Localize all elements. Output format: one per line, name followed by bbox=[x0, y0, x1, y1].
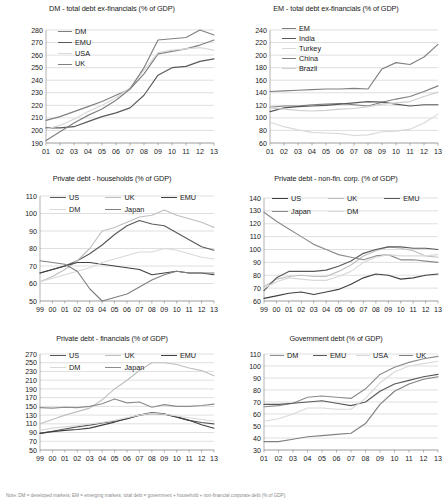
legend-item-japan: Japan bbox=[105, 206, 160, 213]
series-line-uk bbox=[264, 247, 438, 287]
x-tick-label: 08 bbox=[148, 306, 156, 314]
legend-label: Japan bbox=[291, 208, 311, 215]
y-tick-label: 130 bbox=[249, 207, 261, 215]
legend-swatch bbox=[399, 355, 413, 356]
legend-label: EM bbox=[299, 25, 310, 32]
x-tick-label: 02 bbox=[73, 306, 81, 314]
x-tick-label: 09 bbox=[160, 306, 168, 314]
x-tick-label: 99 bbox=[36, 455, 44, 463]
panel-private-debt-financials: Private debt - financials (% of GDP) 507… bbox=[0, 330, 224, 478]
legend-label: China bbox=[299, 55, 318, 62]
x-tick-label: 09 bbox=[376, 455, 384, 463]
x-tick-label: 02 bbox=[56, 148, 64, 156]
x-tick-label: 06 bbox=[123, 306, 131, 314]
x-tick-label: 12 bbox=[420, 148, 428, 156]
legend-swatch bbox=[282, 38, 296, 39]
y-tick-label: 220 bbox=[31, 102, 43, 110]
x-tick-label: 07 bbox=[347, 455, 355, 463]
x-tick-label: 03 bbox=[86, 455, 94, 463]
x-tick-label: 03 bbox=[86, 306, 94, 314]
y-tick-label: 80 bbox=[259, 127, 267, 135]
legend-label: DM bbox=[75, 28, 86, 35]
x-tick-label: 01 bbox=[266, 148, 274, 156]
x-tick-label: 04 bbox=[304, 455, 312, 463]
y-tick-label: 140 bbox=[255, 89, 267, 97]
y-tick-label: 70 bbox=[253, 399, 261, 407]
x-tick-label: 12 bbox=[196, 148, 204, 156]
y-tick-label: 100 bbox=[25, 210, 37, 218]
y-tick-label: 80 bbox=[29, 245, 37, 253]
x-tick-label: 10 bbox=[391, 455, 399, 463]
legend-swatch bbox=[270, 355, 284, 356]
x-tick-label: 13 bbox=[210, 148, 218, 156]
legend-label: DM bbox=[347, 208, 358, 215]
legend-label: USA bbox=[373, 352, 388, 359]
x-tick-label: 08 bbox=[372, 306, 380, 314]
figure-footnote: Note: DM = developed markets; EM = emerg… bbox=[6, 493, 446, 500]
x-tick-label: 05 bbox=[322, 148, 330, 156]
legend-item-us: US bbox=[50, 194, 105, 201]
x-tick-label: 00 bbox=[272, 306, 280, 314]
series-line-usa bbox=[264, 361, 438, 421]
series-line-japan bbox=[40, 261, 214, 301]
legend-item-us: US bbox=[272, 195, 328, 202]
x-tick-label: 04 bbox=[322, 306, 330, 314]
legend-swatch bbox=[105, 197, 121, 198]
legend-item-uk: UK bbox=[328, 195, 384, 202]
y-tick-label: 210 bbox=[31, 114, 43, 122]
y-tick-label: 90 bbox=[29, 429, 37, 437]
legend-item-dm: DM bbox=[58, 28, 218, 35]
y-tick-label: 50 bbox=[29, 447, 37, 455]
x-tick-label: 03 bbox=[70, 148, 78, 156]
legend-swatch bbox=[50, 209, 66, 210]
legend: DMEMUUSAUK bbox=[270, 352, 442, 359]
legend-label: DM bbox=[287, 352, 298, 359]
x-tick-label: 08 bbox=[148, 455, 156, 463]
y-tick-label: 110 bbox=[26, 420, 37, 428]
y-tick-label: 50 bbox=[253, 423, 261, 431]
legend-swatch bbox=[161, 197, 177, 198]
legend: USUKEMUDMJapan bbox=[50, 352, 218, 372]
x-tick-label: 03 bbox=[289, 455, 297, 463]
legend-label: UK bbox=[75, 60, 85, 67]
legend: USUKEMUJapanDM bbox=[272, 195, 442, 216]
x-tick-label: 00 bbox=[48, 306, 56, 314]
legend-item-uk: UK bbox=[105, 352, 160, 359]
x-tick-label: 02 bbox=[280, 148, 288, 156]
x-tick-label: 01 bbox=[260, 455, 268, 463]
legend-label: EMU bbox=[180, 352, 196, 359]
x-tick-label: 13 bbox=[434, 306, 442, 314]
legend-item-india: India bbox=[282, 35, 442, 42]
x-tick-label: 09 bbox=[378, 148, 386, 156]
x-tick-label: 10 bbox=[392, 148, 400, 156]
legend-swatch bbox=[282, 28, 296, 29]
legend-label: USA bbox=[75, 50, 90, 57]
legend-swatch bbox=[58, 31, 72, 32]
legend-item-dm: DM bbox=[50, 364, 105, 371]
x-tick-label: 12 bbox=[420, 455, 428, 463]
y-tick-label: 40 bbox=[253, 435, 261, 443]
x-tick-label: 03 bbox=[310, 306, 318, 314]
y-tick-label: 260 bbox=[31, 52, 43, 60]
x-tick-label: 11 bbox=[185, 306, 192, 314]
y-tick-label: 60 bbox=[253, 411, 261, 419]
x-tick-label: 13 bbox=[210, 306, 218, 314]
figure-grid: DM - total debt ex-financials (% of GDP)… bbox=[0, 0, 448, 500]
y-tick-label: 70 bbox=[29, 438, 37, 446]
x-tick-label: 10 bbox=[397, 306, 405, 314]
legend-swatch bbox=[313, 355, 327, 356]
x-tick-label: 04 bbox=[98, 455, 106, 463]
series-line-emu bbox=[40, 413, 214, 433]
x-tick-label: 08 bbox=[362, 455, 370, 463]
x-tick-label: 04 bbox=[308, 148, 316, 156]
panel-dm-total-debt: DM - total debt ex-financials (% of GDP)… bbox=[0, 0, 224, 170]
x-tick-label: 07 bbox=[126, 148, 134, 156]
y-tick-label: 250 bbox=[31, 64, 43, 72]
legend: EMIndiaTurkeyChinaBrazil bbox=[282, 25, 442, 72]
y-tick-label: 110 bbox=[250, 351, 261, 359]
x-tick-label: 06 bbox=[123, 455, 131, 463]
legend-item-usa: USA bbox=[58, 50, 218, 57]
legend-label: EMU bbox=[330, 352, 346, 359]
legend-item-japan: Japan bbox=[105, 364, 160, 371]
legend-label: EMU bbox=[180, 194, 196, 201]
